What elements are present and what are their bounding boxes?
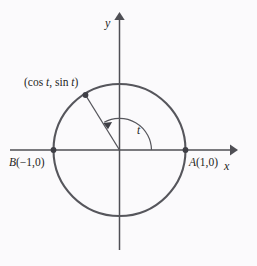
- unit-circle-diagram: (cos t, sin t) B(−1,0) A(1,0) x y t: [0, 0, 257, 266]
- radius-segment: [86, 95, 120, 150]
- unit-circle-figure: (cos t, sin t) B(−1,0) A(1,0) x y t: [0, 0, 257, 266]
- x-axis-label: x: [223, 159, 230, 173]
- y-axis-arrowhead-icon: [114, 12, 124, 20]
- point-p-marker: [83, 92, 89, 98]
- x-axis-arrowhead-icon: [230, 145, 238, 156]
- point-a-label: A(1,0): [188, 156, 218, 169]
- y-axis-label: y: [104, 16, 111, 30]
- point-p-label: (cos t, sin t): [24, 76, 79, 89]
- point-b-label: B(−1,0): [9, 156, 45, 169]
- point-a-marker: [183, 147, 189, 153]
- point-b-marker: [51, 147, 57, 153]
